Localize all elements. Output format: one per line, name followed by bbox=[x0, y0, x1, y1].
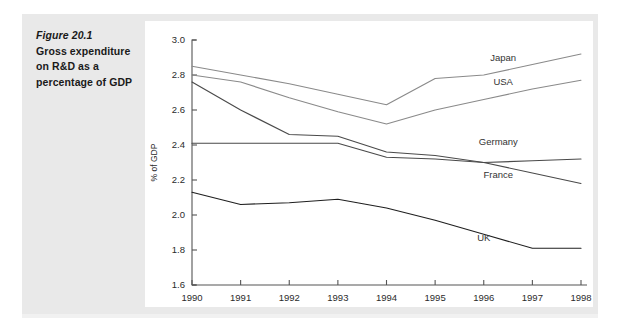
y-tick-label: 2.4 bbox=[172, 139, 185, 150]
x-axis: 199019911992199319941995199619971998 bbox=[181, 280, 591, 303]
x-tick-label: 1990 bbox=[181, 292, 202, 303]
y-tick-label: 2.8 bbox=[172, 69, 185, 80]
figure-number: Figure 20.1 bbox=[36, 28, 140, 44]
y-tick-label: 3.0 bbox=[172, 34, 185, 45]
series-line-france bbox=[192, 82, 581, 184]
x-tick-label: 1996 bbox=[473, 292, 494, 303]
x-tick-label: 1995 bbox=[425, 292, 446, 303]
y-axis: 1.61.82.02.22.42.62.83.0 bbox=[172, 34, 197, 290]
x-tick-label: 1991 bbox=[230, 292, 251, 303]
rnd-expenditure-line-chart: 1.61.82.02.22.42.62.83.0 199019911992199… bbox=[145, 21, 593, 307]
y-axis-title-group: % of GDP bbox=[149, 143, 159, 181]
series-label-group: JapanUSAGermanyFranceUK bbox=[477, 52, 518, 243]
x-tick-label: 1998 bbox=[570, 292, 591, 303]
y-tick-label: 1.8 bbox=[172, 244, 185, 255]
figure-caption: Figure 20.1 Gross expenditure on R&D as … bbox=[36, 28, 140, 90]
x-tick-label: 1997 bbox=[522, 292, 543, 303]
figure-caption-text: Gross expenditure on R&D as a percentage… bbox=[36, 44, 140, 91]
chart-series-group bbox=[192, 54, 581, 248]
series-line-uk bbox=[192, 192, 581, 248]
y-tick-label: 1.6 bbox=[172, 279, 185, 290]
y-tick-label: 2.0 bbox=[172, 209, 185, 220]
y-axis-line bbox=[192, 40, 196, 285]
figure-container: Figure 20.1 Gross expenditure on R&D as … bbox=[0, 0, 620, 330]
series-label-germany: Germany bbox=[479, 136, 518, 147]
series-line-germany bbox=[192, 143, 581, 162]
series-line-japan bbox=[192, 54, 581, 105]
y-axis-title: % of GDP bbox=[149, 143, 159, 181]
series-line-usa bbox=[192, 75, 581, 124]
x-tick-label: 1992 bbox=[279, 292, 300, 303]
y-tick-label: 2.6 bbox=[172, 104, 185, 115]
series-label-france: France bbox=[484, 169, 514, 180]
series-label-uk: UK bbox=[477, 232, 491, 243]
x-tick-label: 1993 bbox=[327, 292, 348, 303]
chart-panel: 1.61.82.02.22.42.62.83.0 199019911992199… bbox=[145, 21, 593, 307]
series-label-japan: Japan bbox=[490, 52, 516, 63]
series-label-usa: USA bbox=[493, 76, 513, 87]
x-tick-label: 1994 bbox=[376, 292, 397, 303]
y-tick-label: 2.2 bbox=[172, 174, 185, 185]
